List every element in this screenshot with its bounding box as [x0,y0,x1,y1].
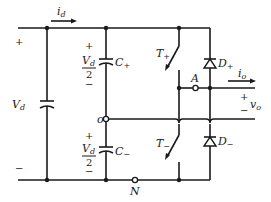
node-a [193,85,198,90]
label-vo: vo [250,98,261,112]
junction-dot [208,86,212,90]
junction-dot [177,26,181,30]
label-cminus-minus: − [85,166,93,177]
junction-dot [104,26,108,30]
label-d-minus: D− [217,135,234,149]
label-t-plus: T+ [156,47,170,61]
label-node-a: A [190,72,199,85]
node-o [103,116,108,121]
junction-dot [177,86,181,90]
label-c-minus: C− [115,145,130,159]
label-cminus-plus: + [85,130,93,141]
capacitor-c-minus [99,121,113,180]
label-vo-minus: − [240,105,248,116]
label-node-n: N [129,185,140,198]
label-cplus-plus: + [85,40,93,51]
junction-dot [177,178,181,182]
switch-t-minus [165,124,179,180]
label-cplus-vd: Vd [82,54,95,68]
node-n [132,177,137,182]
label-cplus-minus: − [85,79,93,90]
switch-t-plus [165,28,179,120]
arrow-head-icon [250,79,256,84]
label-node-o: o [97,113,104,126]
junction-dot [45,178,49,182]
label-id: id [57,5,66,19]
half-bridge-circuit: id + − Vd + Vd 2 − C+ + Vd 2 − C− o N A … [0,0,271,202]
label-vd: Vd [12,98,25,112]
diode-d-plus [204,28,216,120]
label-t-minus: T− [156,137,170,151]
junction-dot [45,26,49,30]
label-io: io [238,67,247,81]
capacitor-c-plus [99,28,113,117]
arrow-head-icon [71,19,77,24]
junction-dot [104,178,108,182]
label-vo-plus: + [240,91,248,102]
label-d-plus: D+ [217,57,234,71]
label-vd-plus: + [15,36,23,47]
label-cminus-vd: Vd [82,142,95,156]
vd-source-capacitor [40,28,54,180]
label-c-plus: C+ [115,56,130,70]
midpoint-output-line [109,119,255,123]
label-vd-minus: − [15,163,23,174]
diode-d-minus [204,124,216,180]
